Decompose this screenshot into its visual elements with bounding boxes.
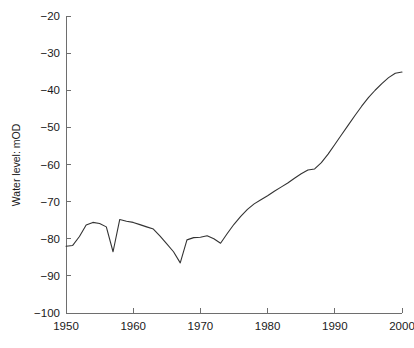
y-tick-label: −40 [40, 84, 60, 96]
y-tick-label: −70 [40, 196, 60, 208]
series-line [66, 72, 402, 263]
y-tick-label: −50 [40, 121, 60, 133]
y-axis-group: −100−90−80−70−60−50−40−30−20 Water level… [10, 10, 71, 319]
y-tick-label: −80 [40, 233, 60, 245]
x-axis-group: 195019601970198019902000 [53, 308, 414, 332]
y-tick-label: −100 [34, 307, 60, 319]
x-tick-label: 1990 [322, 320, 348, 332]
x-tick-label: 1960 [120, 320, 146, 332]
line-chart: −100−90−80−70−60−50−40−30−20 Water level… [0, 0, 414, 348]
x-tick-label: 1980 [255, 320, 281, 332]
y-tick-label: −30 [40, 47, 60, 59]
chart-figure: −100−90−80−70−60−50−40−30−20 Water level… [0, 0, 414, 348]
data-series-group [66, 72, 402, 263]
y-tick-label: −90 [40, 270, 60, 282]
y-tick-label: −60 [40, 159, 60, 171]
x-tick-label: 1970 [188, 320, 214, 332]
y-axis-title: Water level: mOD [10, 123, 22, 206]
x-tick-label: 1950 [53, 320, 79, 332]
x-axis-tick-labels: 195019601970198019902000 [53, 320, 414, 332]
x-tick-label: 2000 [389, 320, 414, 332]
y-tick-label: −20 [40, 10, 60, 22]
y-axis-tick-labels: −100−90−80−70−60−50−40−30−20 [34, 10, 60, 319]
x-axis-ticks [66, 308, 402, 313]
y-axis-ticks [66, 16, 71, 313]
